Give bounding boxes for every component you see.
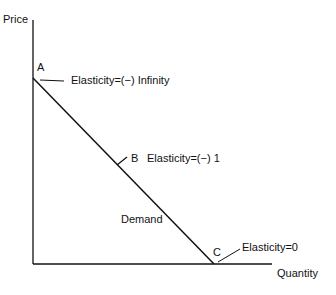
demand-curve xyxy=(33,78,214,264)
tick-b xyxy=(117,157,127,165)
x-axis-label: Quantity xyxy=(277,267,318,279)
point-a-annotation: Elasticity=(−) Infinity xyxy=(71,74,169,86)
elasticity-diagram: Price Quantity A Elasticity=(−) Infinity… xyxy=(0,0,336,295)
point-c-label: C xyxy=(213,246,221,258)
leader-a xyxy=(40,80,64,81)
leader-c xyxy=(218,249,240,262)
point-c-annotation: Elasticity=0 xyxy=(242,241,298,253)
point-b-label: B xyxy=(131,152,138,164)
y-axis-label: Price xyxy=(3,13,28,25)
demand-curve-label: Demand xyxy=(121,213,163,225)
point-a-label: A xyxy=(37,61,44,73)
point-b-annotation: Elasticity=(−) 1 xyxy=(147,152,220,164)
